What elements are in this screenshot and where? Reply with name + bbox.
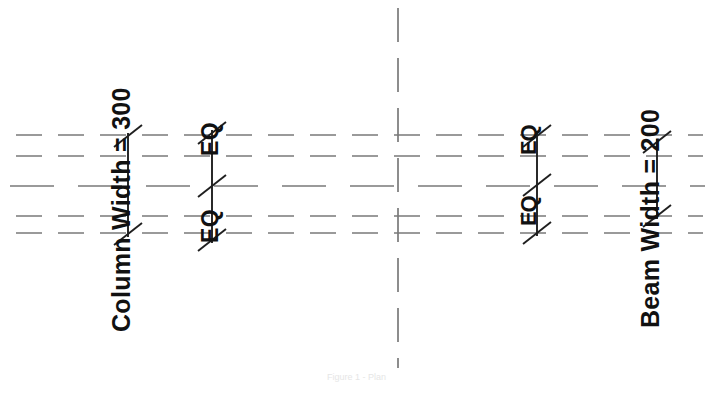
beam-width-label: Beam Width = 200 bbox=[636, 109, 665, 328]
figure-caption: Figure 1 - Plan bbox=[327, 372, 386, 382]
eq-left-upper-label: EQ bbox=[197, 122, 224, 156]
eq-right-upper-label: EQ bbox=[516, 126, 542, 155]
drawing-canvas: Column Width = 300 EQ EQ EQ EQ Beam Widt… bbox=[0, 0, 719, 393]
column-width-label: Column Width = 300 bbox=[107, 87, 136, 332]
eq-left-lower-label: EQ bbox=[197, 209, 224, 243]
eq-right-lower-label: EQ bbox=[516, 197, 542, 226]
